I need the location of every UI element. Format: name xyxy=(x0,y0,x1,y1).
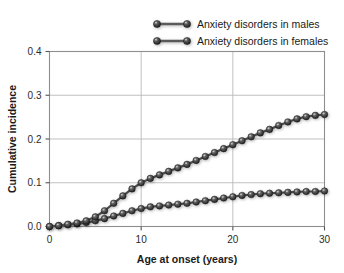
marker-highlight xyxy=(130,209,132,211)
series-females xyxy=(46,111,328,230)
marker-highlight xyxy=(75,221,77,223)
data-point-marker xyxy=(285,189,292,196)
legend-label-males: Anxiety disorders in males xyxy=(197,18,320,30)
axis-tick-labels: 0.00.10.20.30.40102030 xyxy=(28,46,331,244)
data-point-marker xyxy=(220,195,227,202)
marker-highlight xyxy=(203,155,205,157)
data-point-marker xyxy=(165,202,172,209)
marker-highlight xyxy=(103,209,105,211)
marker-highlight xyxy=(66,223,68,225)
chart-canvas: 0.00.10.20.30.40102030 Cumulative incide… xyxy=(0,0,344,273)
x-axis-title: Age at onset (years) xyxy=(137,253,237,265)
data-point-marker xyxy=(248,191,255,198)
data-series xyxy=(46,111,328,230)
marker-highlight xyxy=(304,190,306,192)
data-point-marker xyxy=(138,205,145,212)
marker-highlight xyxy=(48,225,50,227)
legend-marker-highlight xyxy=(185,39,187,41)
x-tick-label: 20 xyxy=(227,234,239,245)
data-point-marker xyxy=(239,137,246,144)
legend-label-females: Anxiety disorders in females xyxy=(197,35,328,47)
y-tick-label: 0.1 xyxy=(28,177,42,188)
legend-marker xyxy=(183,37,190,44)
legend-swatch-males xyxy=(153,20,190,27)
data-point-marker xyxy=(257,130,264,137)
marker-highlight xyxy=(112,202,114,204)
data-point-marker xyxy=(65,221,72,228)
marker-highlight xyxy=(268,128,270,130)
data-point-marker xyxy=(110,200,117,207)
marker-highlight xyxy=(167,170,169,172)
marker-highlight xyxy=(323,189,325,191)
x-tick-label: 0 xyxy=(47,234,53,245)
data-point-marker xyxy=(138,179,145,186)
marker-highlight xyxy=(240,194,242,196)
data-point-marker xyxy=(312,112,319,119)
marker-highlight xyxy=(249,135,251,137)
marker-highlight xyxy=(277,124,279,126)
x-tick-label: 10 xyxy=(136,234,148,245)
marker-highlight xyxy=(158,173,160,175)
marker-highlight xyxy=(222,196,224,198)
marker-highlight xyxy=(158,204,160,206)
data-point-marker xyxy=(175,165,182,172)
data-point-marker xyxy=(239,192,246,199)
data-point-marker xyxy=(129,207,136,214)
marker-highlight xyxy=(167,203,169,205)
marker-highlight xyxy=(258,192,260,194)
data-point-marker xyxy=(303,188,310,195)
marker-highlight xyxy=(194,200,196,202)
data-point-marker xyxy=(294,189,301,196)
marker-highlight xyxy=(240,139,242,141)
marker-highlight xyxy=(231,143,233,145)
marker-highlight xyxy=(103,217,105,219)
legend-marker xyxy=(153,37,160,44)
legend-marker-highlight xyxy=(155,22,157,24)
data-point-marker xyxy=(147,175,154,182)
data-point-marker xyxy=(230,141,237,148)
marker-highlight xyxy=(258,131,260,133)
marker-highlight xyxy=(323,113,325,115)
data-point-marker xyxy=(129,186,136,193)
marker-highlight xyxy=(57,224,59,226)
data-point-marker xyxy=(120,193,127,200)
data-point-marker xyxy=(230,193,237,200)
data-point-marker xyxy=(55,222,62,229)
legend-swatch-females xyxy=(153,37,190,44)
series-line xyxy=(50,191,325,226)
marker-highlight xyxy=(286,120,288,122)
data-point-marker xyxy=(275,122,282,129)
y-tick-label: 0.2 xyxy=(28,134,42,145)
marker-highlight xyxy=(148,205,150,207)
data-point-marker xyxy=(321,111,328,118)
marker-highlight xyxy=(203,199,205,201)
data-point-marker xyxy=(147,204,154,211)
legend-marker xyxy=(153,20,160,27)
marker-highlight xyxy=(295,190,297,192)
marker-highlight xyxy=(249,193,251,195)
y-tick-label: 0.3 xyxy=(28,90,42,101)
data-point-marker xyxy=(165,168,172,175)
marker-highlight xyxy=(185,163,187,165)
data-point-marker xyxy=(193,157,200,164)
marker-highlight xyxy=(139,207,141,209)
marker-highlight xyxy=(313,114,315,116)
data-point-marker xyxy=(184,161,191,168)
legend xyxy=(153,20,190,44)
marker-highlight xyxy=(194,159,196,161)
data-point-marker xyxy=(211,149,218,156)
anxiety-cumulative-incidence-chart: 0.00.10.20.30.40102030 Cumulative incide… xyxy=(0,0,344,273)
legend-marker-highlight xyxy=(185,22,187,24)
data-point-marker xyxy=(294,116,301,123)
marker-highlight xyxy=(148,177,150,179)
marker-highlight xyxy=(93,215,95,217)
data-point-marker xyxy=(156,203,163,210)
data-point-marker xyxy=(303,113,310,120)
x-tick-label: 30 xyxy=(319,234,331,245)
data-point-marker xyxy=(220,145,227,152)
data-point-marker xyxy=(321,188,328,195)
marker-highlight xyxy=(185,202,187,204)
y-axis-title: Cumulative incidence xyxy=(6,85,18,193)
marker-highlight xyxy=(121,212,123,214)
series-line xyxy=(50,115,325,227)
